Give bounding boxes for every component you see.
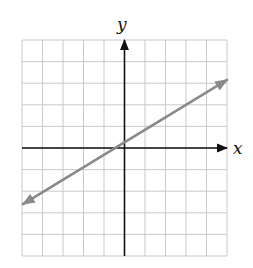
y-axis-label: y (116, 14, 127, 34)
x-axis-label: x (233, 138, 243, 158)
coordinate-plane: x y (0, 0, 253, 268)
